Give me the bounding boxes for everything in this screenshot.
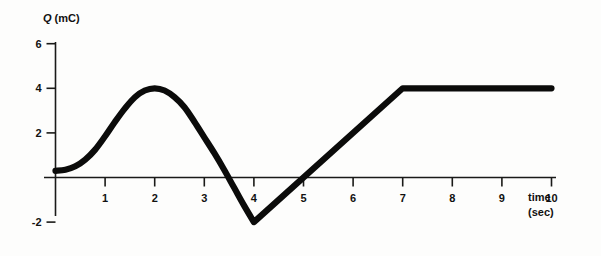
- y-axis-title: Q(mC): [43, 12, 80, 24]
- y-axis-tick-labels: -2246: [32, 38, 43, 228]
- y-tick-label-6: 6: [35, 38, 41, 50]
- y-axis-ticks: [47, 44, 56, 222]
- x-axis-title-line1: time: [528, 191, 551, 203]
- x-tick-label-9: 9: [499, 192, 505, 204]
- y-axis-units: (mC): [55, 12, 80, 24]
- x-tick-label-7: 7: [400, 192, 406, 204]
- x-tick-label-2: 2: [152, 192, 158, 204]
- x-tick-label-8: 8: [449, 192, 455, 204]
- charge-vs-time-graph: -2246 12345678910 Q(mC) time (sec): [0, 0, 601, 256]
- y-axis-symbol: Q: [43, 12, 52, 24]
- x-tick-label-5: 5: [300, 192, 306, 204]
- x-axis-title-line2: (sec): [528, 206, 554, 218]
- y-tick-label-4: 4: [35, 82, 42, 94]
- x-axis-tick-labels: 12345678910: [102, 192, 558, 204]
- x-tick-label-1: 1: [102, 192, 108, 204]
- y-tick-label-2: 2: [35, 127, 41, 139]
- x-axis-ticks: [105, 178, 551, 187]
- y-tick-label--2: -2: [32, 216, 42, 228]
- x-tick-label-3: 3: [201, 192, 207, 204]
- x-tick-label-6: 6: [350, 192, 356, 204]
- x-tick-label-4: 4: [251, 192, 258, 204]
